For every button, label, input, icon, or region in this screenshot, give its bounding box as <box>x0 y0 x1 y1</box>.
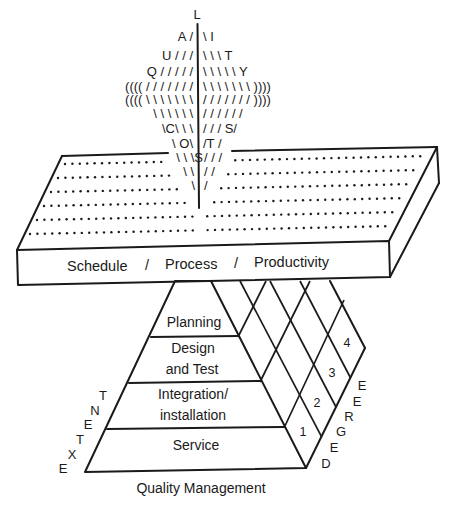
slab-dot <box>191 215 193 217</box>
slab-dot <box>58 232 60 234</box>
extent-letter: E <box>59 461 68 476</box>
extent-letter: E <box>84 417 93 432</box>
slab-dot <box>383 184 385 186</box>
ascii-row-left: Q / / / / / <box>147 64 194 79</box>
degree-level-4: 4 <box>344 336 351 350</box>
slab-dot <box>43 205 45 207</box>
slab-dot <box>131 175 133 177</box>
degree-letter: D <box>321 456 330 471</box>
layer-label-integration: Integration/ <box>158 386 228 402</box>
slab-dot <box>353 170 355 172</box>
slab-dot <box>398 183 400 185</box>
slab-dot <box>72 177 74 179</box>
slab-dot <box>338 185 340 187</box>
slab-dot <box>102 190 104 192</box>
slab-dot <box>257 200 259 202</box>
slab-dot <box>331 199 333 201</box>
slab-dot <box>109 203 111 205</box>
slab-dot <box>93 162 95 164</box>
slab-dot <box>73 218 75 220</box>
slab-dot <box>234 159 236 161</box>
ascii-row-left: \ O\ <box>172 136 193 151</box>
slab-dot <box>389 156 391 158</box>
slab-dot <box>87 190 89 192</box>
slab-dot <box>162 230 164 232</box>
slab-right-edge <box>389 147 437 241</box>
slab-dot <box>88 232 90 234</box>
slab-dot <box>295 213 297 215</box>
ascii-row-left: \ \ <box>183 164 194 179</box>
slab-dot <box>339 198 341 200</box>
slab-dot <box>287 213 289 215</box>
slab-dot <box>375 184 377 186</box>
slab-dot <box>64 177 66 179</box>
slab-dot <box>132 231 134 233</box>
slab-dot <box>256 159 258 161</box>
slab-dot <box>214 229 216 231</box>
slab-dot <box>382 170 384 172</box>
slab-dot <box>404 155 406 157</box>
slab-dot <box>286 158 288 160</box>
extent-letter: X <box>68 447 77 462</box>
slab-dot <box>286 172 288 174</box>
slab-dot <box>338 171 340 173</box>
slab-dot <box>88 218 90 220</box>
ascii-row-left: \ \ \S <box>176 150 203 165</box>
slab-dot <box>384 225 386 227</box>
slab-dot <box>139 189 141 191</box>
extent-letter: T <box>76 432 84 447</box>
slab-dot <box>95 204 97 206</box>
slab-dot <box>95 218 97 220</box>
slab-dot <box>264 186 266 188</box>
slab-dot <box>132 217 134 219</box>
ascii-row-right: \ \ \ T <box>203 48 232 63</box>
slab-dot <box>86 162 88 164</box>
slab-dot <box>117 203 119 205</box>
ascii-row-left: \C\ \ \ <box>162 121 193 136</box>
slab-dot <box>139 203 141 205</box>
slab-dot <box>345 171 347 173</box>
slab-dot <box>303 227 305 229</box>
slab-dot <box>250 186 252 188</box>
slab-dot <box>161 202 163 204</box>
slab-dot <box>376 211 378 213</box>
slab-label-productivity: Productivity <box>254 254 330 270</box>
slab-dot <box>44 233 46 235</box>
slab-dot <box>352 157 354 159</box>
slab-dot <box>236 214 238 216</box>
slab-dot <box>294 199 296 201</box>
slab-dot <box>64 163 66 165</box>
slab-dot <box>116 162 118 164</box>
slab-dot <box>368 184 370 186</box>
slab-dot <box>279 172 281 174</box>
slab-dot <box>169 230 171 232</box>
slab-dot <box>309 199 311 201</box>
slab-dot <box>391 197 393 199</box>
slab-dot <box>155 230 157 232</box>
slab-dot <box>280 227 282 229</box>
slab-dot <box>377 225 379 227</box>
slab-dot <box>258 228 260 230</box>
slab-label-process: Process <box>165 256 217 272</box>
slab-dot <box>227 187 229 189</box>
slab-dot <box>153 175 155 177</box>
slab-dot <box>301 171 303 173</box>
slab-dot <box>241 159 243 161</box>
slab-dot <box>161 188 163 190</box>
slab-dot <box>360 170 362 172</box>
ascii-letter-l: L <box>193 7 200 22</box>
slab-dot <box>346 184 348 186</box>
extent-axis-label: E X T E N T <box>59 388 107 476</box>
ascii-row-right: / / / / / / / )))) <box>203 92 271 107</box>
slab-dot <box>184 216 186 218</box>
slab-dot <box>243 228 245 230</box>
slab-dot <box>367 156 369 158</box>
slab-dot <box>397 156 399 158</box>
slab-dot <box>124 189 126 191</box>
slab-dot <box>206 229 208 231</box>
slab-dot <box>50 205 52 207</box>
slab-dot <box>347 212 349 214</box>
slab-dot <box>278 158 280 160</box>
slab-dot <box>58 205 60 207</box>
slab-dot <box>228 201 230 203</box>
